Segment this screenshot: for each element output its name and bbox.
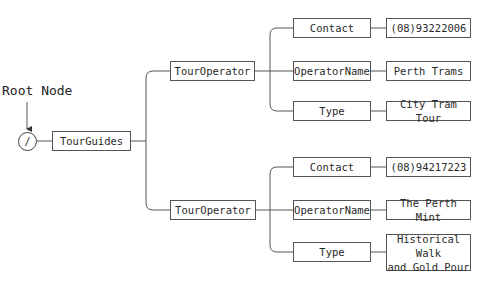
tourguides-node: TourGuides <box>52 131 131 151</box>
type-value-1: City Tram Tour <box>386 101 471 121</box>
root-node-label: Root Node <box>2 83 72 98</box>
contact-value-2: (08)94217223 <box>386 157 471 177</box>
type-node-1: Type <box>293 101 371 121</box>
touroperator-node-1: TourOperator <box>170 61 255 81</box>
type-node-2: Type <box>293 242 371 262</box>
operatorname-value-1: Perth Trams <box>386 61 471 81</box>
contact-value-1: (08)93222006 <box>386 18 471 38</box>
contact-node-2: Contact <box>293 157 371 177</box>
operatorname-node-2: OperatorName <box>293 200 371 220</box>
contact-node-1: Contact <box>293 18 371 38</box>
operatorname-value-2: The Perth Mint <box>386 200 471 220</box>
root-node: / <box>18 132 37 151</box>
touroperator-node-2: TourOperator <box>170 200 256 220</box>
type-value-2: Historical Walk and Gold Pour <box>386 234 471 271</box>
operatorname-node-1: OperatorName <box>293 61 371 81</box>
